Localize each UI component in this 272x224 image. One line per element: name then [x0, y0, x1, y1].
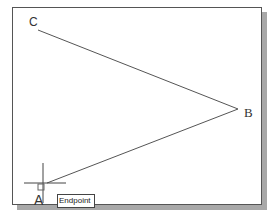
- line-b-a[interactable]: [47, 109, 238, 183]
- point-label-a: A: [34, 194, 43, 207]
- point-label-c: C: [29, 16, 38, 29]
- line-c-b[interactable]: [38, 30, 238, 109]
- osnap-tooltip: Endpoint: [57, 194, 95, 208]
- drawing-canvas[interactable]: [0, 0, 272, 224]
- point-label-b: B: [244, 106, 253, 119]
